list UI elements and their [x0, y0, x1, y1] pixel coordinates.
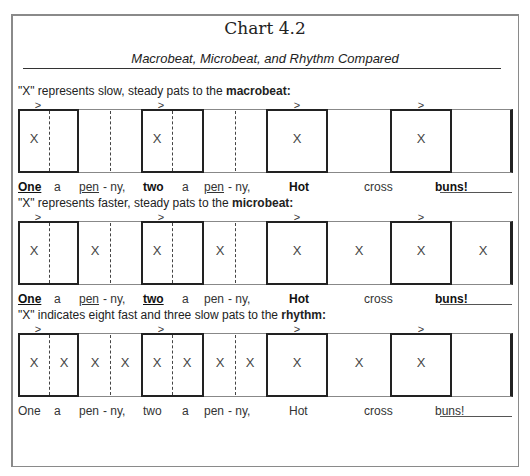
lyric-syllable: a [54, 404, 61, 418]
lyric-syllable: One [18, 404, 41, 418]
subdivision-divider [235, 223, 236, 283]
pat-mark: X [24, 243, 44, 258]
lyric-syllable: pen [204, 180, 224, 194]
lyric-syllable: pen [204, 404, 224, 418]
lyric-syllable: pen [79, 180, 99, 194]
lyric-syllable: a [54, 292, 61, 306]
beat-cell [452, 333, 513, 397]
section-caption: "X" represents slow, steady pats to the … [18, 84, 291, 98]
lyric-syllable: - ny, [228, 180, 250, 194]
lyric-syllable: - ny, [228, 292, 250, 306]
answer-blank[interactable] [440, 416, 512, 417]
beat-strip: XXXXXXXXXXX [18, 333, 513, 397]
lyric-syllable: pen [79, 404, 99, 418]
pat-mark: X [147, 131, 167, 146]
lyric-syllable: pen [79, 292, 99, 306]
pat-mark: X [115, 355, 135, 370]
subdivision-divider [172, 111, 173, 171]
pat-mark: X [411, 131, 431, 146]
lyric-syllable: a [182, 404, 189, 418]
chart-subtitle: Macrobeat, Microbeat, and Rhythm Compare… [0, 51, 530, 66]
lyric-syllable: cross [364, 404, 393, 418]
lyric-syllable: cross [364, 292, 393, 306]
caption-text: "X" represents slow, steady pats to the [18, 84, 226, 98]
caption-text: "X" indicates eight fast and three slow … [18, 308, 281, 322]
subdivision-divider [110, 335, 111, 395]
section-caption: "X" indicates eight fast and three slow … [18, 308, 326, 322]
pat-mark: X [349, 355, 369, 370]
lyric-syllable: - ny, [103, 180, 125, 194]
pat-mark: X [54, 355, 74, 370]
lyric-syllable: One [18, 292, 41, 306]
lyric-syllable: One [18, 180, 41, 194]
beat-strip: XXXX [18, 109, 513, 173]
pat-mark: X [287, 131, 307, 146]
subtitle-rule [23, 68, 501, 69]
lyric-syllable: Hot [289, 180, 309, 194]
section-caption: "X" represents faster, steady pats to th… [18, 196, 293, 210]
lyric-syllable: two [143, 180, 164, 194]
pat-mark: X [411, 243, 431, 258]
pat-mark: X [147, 243, 167, 258]
lyric-syllable: Hot [289, 292, 309, 306]
lyric-syllable: a [182, 292, 189, 306]
subdivision-divider [49, 335, 50, 395]
pat-mark: X [177, 355, 197, 370]
lyric-syllable: Hot [289, 404, 308, 418]
lyric-syllable: - ny, [228, 404, 250, 418]
lyric-syllable: - ny, [103, 292, 125, 306]
pat-mark: X [147, 355, 167, 370]
lyric-syllable: a [182, 180, 189, 194]
pat-mark: X [85, 243, 105, 258]
pat-mark: X [349, 243, 369, 258]
beat-strip: XXXXXXXX [18, 221, 513, 285]
subdivision-divider [49, 223, 50, 283]
caption-keyword: macrobeat: [226, 84, 291, 98]
subdivision-divider [235, 111, 236, 171]
answer-blank[interactable] [440, 304, 512, 305]
chart-title: Chart 4.2 [0, 18, 530, 38]
caption-keyword: rhythm: [281, 308, 326, 322]
caption-text: "X" represents faster, steady pats to th… [18, 196, 232, 210]
lyric-syllable: two [143, 404, 162, 418]
lyric-syllable: a [54, 180, 61, 194]
pat-mark: X [85, 355, 105, 370]
lyric-syllable: pen [204, 292, 224, 306]
subdivision-divider [110, 223, 111, 283]
subdivision-divider [235, 335, 236, 395]
pat-mark: X [411, 355, 431, 370]
pat-mark: X [473, 243, 493, 258]
answer-blank[interactable] [440, 192, 512, 193]
beat-cell [328, 109, 390, 173]
caption-keyword: microbeat: [232, 196, 293, 210]
pat-mark: X [287, 355, 307, 370]
subdivision-divider [110, 111, 111, 171]
pat-mark: X [210, 355, 230, 370]
pat-mark: X [287, 243, 307, 258]
subdivision-divider [172, 335, 173, 395]
pat-mark: X [240, 355, 260, 370]
lyric-syllable: cross [364, 180, 393, 194]
beat-cell [452, 109, 513, 173]
lyric-syllable: - ny, [103, 404, 125, 418]
subdivision-divider [172, 223, 173, 283]
lyric-syllable: two [143, 292, 164, 306]
pat-mark: X [24, 355, 44, 370]
pat-mark: X [210, 243, 230, 258]
subdivision-divider [49, 111, 50, 171]
pat-mark: X [24, 131, 44, 146]
